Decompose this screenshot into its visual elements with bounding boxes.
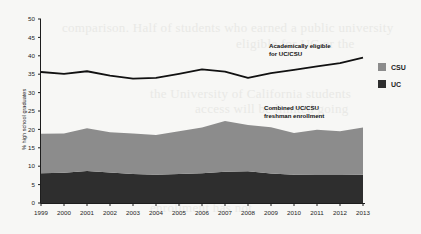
legend-swatch-uc bbox=[378, 80, 386, 88]
chart-legend: CSU UC bbox=[378, 63, 406, 88]
y-axis-label: % high school graduates bbox=[21, 89, 27, 150]
line-series-eligible bbox=[41, 58, 363, 79]
x-tick-label: 2013 bbox=[356, 209, 370, 216]
y-tick-label: 10 bbox=[28, 162, 35, 169]
y-tick-label: 25 bbox=[28, 107, 35, 114]
x-axis-ticks: 1999200020012002200320042005200620072008… bbox=[34, 203, 370, 216]
y-tick-label: 0 bbox=[32, 199, 36, 206]
x-tick-label: 2000 bbox=[57, 209, 71, 216]
chart-figure: comparison. Half of students who earned … bbox=[0, 0, 421, 234]
x-tick-label: 2005 bbox=[172, 209, 186, 216]
x-tick-label: 2007 bbox=[218, 209, 232, 216]
x-tick-label: 2002 bbox=[103, 209, 117, 216]
y-tick-label: 20 bbox=[28, 126, 35, 133]
annotation-enrollment: Combined UC/CSU freshman enrollment bbox=[264, 104, 324, 119]
x-tick-label: 1999 bbox=[34, 209, 48, 216]
x-tick-label: 2006 bbox=[195, 209, 209, 216]
y-tick-label: 35 bbox=[28, 70, 35, 77]
y-tick-label: 45 bbox=[28, 34, 35, 41]
y-tick-label: 40 bbox=[28, 52, 35, 59]
x-tick-label: 2008 bbox=[241, 209, 255, 216]
y-tick-label: 30 bbox=[28, 89, 35, 96]
x-tick-label: 2003 bbox=[126, 209, 140, 216]
x-tick-label: 2010 bbox=[287, 209, 301, 216]
legend-label-csu: CSU bbox=[391, 64, 406, 71]
legend-label-uc: UC bbox=[391, 81, 401, 88]
x-tick-label: 2004 bbox=[149, 209, 163, 216]
x-tick-label: 2001 bbox=[80, 209, 94, 216]
annotation-enrollment-line2: freshman enrollment bbox=[264, 112, 324, 119]
y-tick-label: 50 bbox=[28, 15, 35, 22]
area-chart: % high school graduates 0510152025303540… bbox=[0, 0, 421, 234]
area-series-csu bbox=[41, 121, 363, 175]
legend-swatch-csu bbox=[378, 63, 386, 71]
area-series-uc bbox=[41, 171, 363, 203]
x-tick-label: 2011 bbox=[310, 209, 324, 216]
y-axis-label-group: % high school graduates bbox=[21, 89, 27, 150]
annotation-eligible-line2: for UC/CSU bbox=[269, 50, 303, 57]
x-tick-label: 2009 bbox=[264, 209, 278, 216]
annotation-eligible: Academically eligible for UC/CSU bbox=[269, 42, 331, 57]
x-tick-label: 2012 bbox=[333, 209, 347, 216]
annotation-enrollment-line1: Combined UC/CSU bbox=[264, 104, 319, 111]
annotation-eligible-line1: Academically eligible bbox=[269, 42, 331, 49]
y-tick-label: 5 bbox=[32, 181, 36, 188]
y-tick-label: 15 bbox=[28, 144, 35, 151]
y-axis-ticks: 05101520253035404550 bbox=[28, 15, 41, 206]
